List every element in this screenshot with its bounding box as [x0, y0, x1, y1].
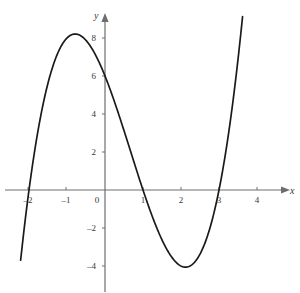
y-axis-arrow-icon [101, 13, 108, 22]
y-tick-label: 2 [92, 147, 97, 157]
x-tick-label-zero: 0 [95, 195, 100, 205]
y-tick-label: –4 [86, 261, 97, 271]
x-axis: x [5, 185, 295, 196]
x-tick-labels: –2 –1 0 1 2 3 4 [23, 195, 260, 205]
y-axis-label: y [93, 10, 99, 21]
x-tick-label: 4 [255, 195, 260, 205]
x-axis-label: x [289, 185, 295, 196]
y-tick-label: 8 [92, 33, 97, 43]
graph-canvas: x y –2 –1 0 1 2 3 4 [0, 0, 300, 293]
y-tick-label: 4 [92, 109, 97, 119]
y-tick-label: –2 [86, 223, 96, 233]
y-tick-labels: 8 6 4 2 –2 –4 [86, 33, 97, 271]
x-tick-label: 2 [179, 195, 184, 205]
cubic-function-plot: x y –2 –1 0 1 2 3 4 [0, 0, 300, 293]
y-tick-label: 6 [92, 71, 97, 81]
x-axis-arrow-icon [281, 186, 290, 193]
cubic-curve [21, 17, 243, 268]
x-tick-label: –1 [61, 195, 71, 205]
